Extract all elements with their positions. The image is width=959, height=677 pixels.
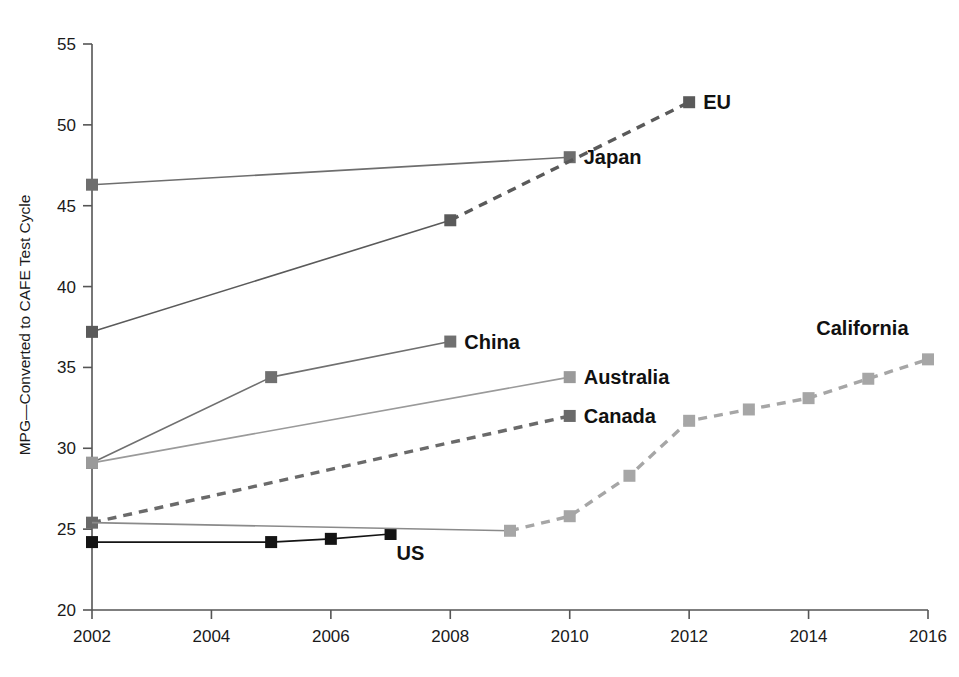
series-label-us: US [397, 542, 425, 564]
series-label-california: California [816, 317, 909, 339]
data-point-marker [743, 403, 755, 415]
x-axis-tick-label: 2012 [670, 627, 708, 646]
data-point-marker [86, 536, 98, 548]
x-axis-tick-label: 2004 [193, 627, 231, 646]
x-axis-tick-label: 2002 [73, 627, 111, 646]
y-axis-title: MPG—Converted to CAFE Test Cycle [16, 195, 33, 456]
data-point-marker [862, 373, 874, 385]
x-axis-tick-label: 2006 [312, 627, 350, 646]
series-china [86, 336, 456, 469]
data-point-marker [444, 214, 456, 226]
series-line-solid [92, 157, 570, 184]
series-eu [86, 96, 695, 338]
x-axis-tick-label: 2014 [790, 627, 828, 646]
series-australia [86, 371, 576, 469]
series-line-solid [92, 377, 570, 463]
series-line-solid [92, 342, 450, 463]
series-label-canada: Canada [584, 405, 657, 427]
data-point-marker [504, 525, 516, 537]
axis-title-layer: MPG—Converted to CAFE Test Cycle [16, 195, 33, 456]
series-us-to-california-link [92, 523, 510, 531]
y-axis-tick-label: 40 [57, 278, 76, 297]
x-axis-tick-label: 2008 [431, 627, 469, 646]
series-line-dashed [92, 416, 570, 523]
series-us [86, 528, 397, 548]
series-label-australia: Australia [584, 366, 670, 388]
y-axis-tick-label: 20 [57, 601, 76, 620]
data-point-marker [86, 326, 98, 338]
data-point-marker [683, 415, 695, 427]
data-point-marker [86, 457, 98, 469]
series-layer [86, 96, 934, 548]
series-line-solid [92, 534, 391, 542]
data-point-marker [265, 371, 277, 383]
y-axis-tick-label: 55 [57, 35, 76, 54]
data-point-marker [444, 336, 456, 348]
data-point-marker [385, 528, 397, 540]
data-point-marker [803, 392, 815, 404]
y-axis-tick-label: 30 [57, 439, 76, 458]
series-label-china: China [464, 331, 520, 353]
y-axis-tick-label: 50 [57, 116, 76, 135]
y-axis-tick-label: 45 [57, 197, 76, 216]
series-japan [86, 151, 576, 190]
data-point-marker [564, 371, 576, 383]
x-axis-tick-label: 2016 [909, 627, 947, 646]
x-axis-tick-label: 2010 [551, 627, 589, 646]
data-point-marker [325, 533, 337, 545]
data-point-marker [922, 353, 934, 365]
series-line-solid [92, 523, 510, 531]
series-canada [86, 410, 576, 529]
series-label-eu: EU [703, 91, 731, 113]
data-point-marker [265, 536, 277, 548]
data-point-marker [683, 96, 695, 108]
y-axis-tick-label: 35 [57, 358, 76, 377]
data-point-marker [564, 510, 576, 522]
series-line-dashed [510, 359, 928, 530]
series-line-solid [92, 220, 450, 332]
chart-container: 2025303540455055200220042006200820102012… [0, 0, 959, 677]
y-axis-tick-label: 25 [57, 520, 76, 539]
data-point-marker [623, 470, 635, 482]
data-point-marker [564, 410, 576, 422]
data-point-marker [86, 179, 98, 191]
line-chart: 2025303540455055200220042006200820102012… [0, 0, 959, 677]
series-label-japan: Japan [584, 146, 642, 168]
